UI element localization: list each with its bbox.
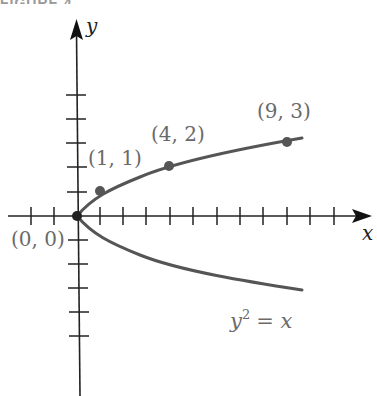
label-1-1: (1, 1) [88,146,142,170]
point-4-2 [164,161,174,171]
label-origin: (0, 0) [11,227,65,251]
point-1-1 [95,186,105,196]
point-9-3 [282,137,292,147]
equation-label: y2= x [229,307,292,333]
axes [8,32,360,396]
label-9-3: (9, 3) [257,99,311,123]
label-4-2: (4, 2) [151,122,205,146]
point-origin [72,211,82,221]
y-axis-label: y [85,14,98,38]
x-axis-label: x [362,221,373,245]
parabola-plot: (0, 0) (1, 1) (4, 2) (9, 3) x y y2= x [0,0,377,396]
